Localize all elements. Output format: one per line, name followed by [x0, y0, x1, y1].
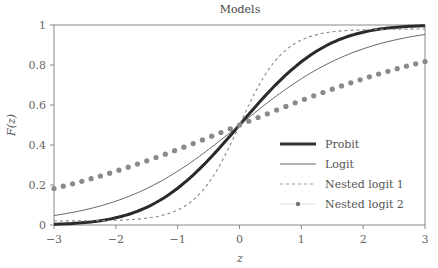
y-tick-label: 0.6	[29, 99, 47, 112]
plot-series	[51, 26, 427, 225]
legend-item-logit: Logit	[280, 158, 354, 171]
x-tick-label: −3	[46, 233, 62, 246]
legend: Probit Logit Nested logit 1 Nested logit…	[280, 138, 404, 211]
x-tick-label: 0	[236, 233, 243, 246]
legend-item-probit: Probit	[280, 138, 360, 151]
legend-item-nested-logit-2: Nested logit 2	[280, 198, 404, 211]
y-axis: 00.20.40.60.81	[29, 19, 55, 232]
y-tick-label: 1	[39, 19, 46, 32]
x-tick-label: −1	[170, 233, 186, 246]
x-axis: −3−2−10123	[46, 225, 429, 246]
x-tick-label: 1	[298, 233, 305, 246]
legend-item-nested-logit-1: Nested logit 1	[280, 178, 404, 191]
y-axis-label: F(z)	[5, 114, 18, 137]
nested-logit-2-markers	[51, 59, 427, 191]
x-axis-label: z	[236, 252, 243, 265]
y-tick-label: 0	[39, 219, 46, 232]
x-tick-label: 2	[360, 233, 367, 246]
y-tick-label: 0.4	[29, 139, 47, 152]
chart: Models 00.20.40.60.81 −3−2−10123 z F(z) …	[0, 0, 438, 268]
legend-label: Logit	[325, 158, 354, 171]
y-tick-label: 0.8	[29, 59, 47, 72]
x-tick-label: 3	[422, 233, 429, 246]
x-tick-label: −2	[108, 233, 124, 246]
legend-label: Nested logit 2	[325, 198, 404, 211]
y-tick-label: 0.2	[29, 179, 47, 192]
chart-title: Models	[220, 3, 261, 16]
legend-label: Nested logit 1	[325, 178, 404, 191]
legend-label: Probit	[325, 138, 360, 151]
